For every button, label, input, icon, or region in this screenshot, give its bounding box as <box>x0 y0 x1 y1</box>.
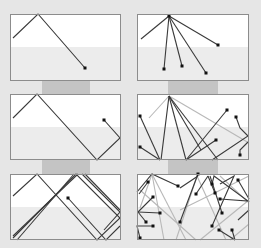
endpoint-dot <box>147 181 150 184</box>
panel-lower-half <box>137 207 249 240</box>
connector-strip <box>42 160 90 174</box>
connector-strip <box>42 81 90 94</box>
endpoint-dot <box>177 185 180 188</box>
panel-lower-half <box>10 47 121 81</box>
endpoint-dot <box>67 197 70 200</box>
endpoint-dot <box>163 68 166 71</box>
endpoint-dot <box>103 119 106 122</box>
endpoint-dot <box>139 146 142 149</box>
endpoint-dot <box>221 212 224 215</box>
endpoint-dot <box>231 229 234 232</box>
endpoint-dot <box>195 193 198 196</box>
endpoint-dot <box>215 139 218 142</box>
endpoint-dot <box>211 225 214 228</box>
endpoint-dot <box>179 221 182 224</box>
connector-strip <box>168 160 218 174</box>
endpoint-dot <box>159 212 162 215</box>
endpoint-dot <box>145 221 148 224</box>
endpoint-dot <box>152 225 155 228</box>
endpoint-dot <box>239 154 242 157</box>
endpoint-dot <box>237 179 240 182</box>
endpoint-dot <box>181 65 184 68</box>
endpoint-dot <box>205 72 208 75</box>
panel-lower-half <box>10 127 121 160</box>
endpoint-dot <box>139 115 142 118</box>
endpoint-dot <box>211 183 214 186</box>
ray-bounce-diagram <box>0 0 261 248</box>
endpoint-dot <box>235 116 238 119</box>
diagram-stage <box>0 0 261 248</box>
endpoint-dot <box>214 192 217 195</box>
endpoint-dot <box>84 67 87 70</box>
connector-strip <box>168 81 218 94</box>
endpoint-dot <box>152 196 155 199</box>
endpoint-dot <box>219 198 222 201</box>
endpoint-dot <box>217 44 220 47</box>
endpoint-dot <box>218 229 221 232</box>
endpoint-dot <box>226 109 229 112</box>
